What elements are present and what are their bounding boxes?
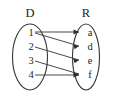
mapping-diagram-canvas: D R 1 2 3 4 a d e f: [0, 0, 113, 105]
domain-element-2: 2: [28, 41, 33, 52]
range-element-e: e: [88, 55, 93, 66]
arrow-1-to-a: [35, 30, 79, 35]
range-set-label: R: [82, 6, 91, 20]
domain-element-1: 1: [28, 27, 33, 38]
domain-element-4: 4: [28, 69, 34, 80]
mapping-diagram: D R 1 2 3 4 a d e f: [0, 0, 113, 105]
range-element-a: a: [88, 27, 93, 38]
domain-set-label: D: [25, 6, 34, 20]
domain-element-3: 3: [28, 55, 33, 66]
range-element-d: d: [87, 41, 93, 52]
arrow-1-to-d: [35, 33, 79, 49]
range-ellipse: [73, 24, 100, 90]
range-element-f: f: [88, 69, 92, 80]
arrow-4-to-f: [35, 73, 79, 78]
